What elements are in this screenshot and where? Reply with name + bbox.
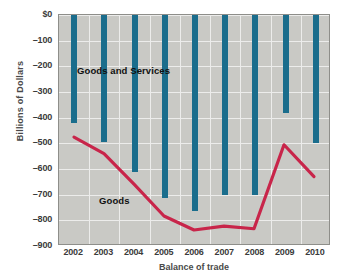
line-series-goods <box>59 15 329 244</box>
x-axis-tick-labels: 200220032004200520062007200820092010 <box>58 247 330 261</box>
balance-of-trade-chart: Billions of Dollars $0–100–200–300–400–5… <box>0 0 338 278</box>
x-tick-label: 2007 <box>215 247 234 257</box>
y-tick-label: $0 <box>42 9 52 19</box>
x-tick-label: 2008 <box>245 247 264 257</box>
y-tick-label: –500 <box>33 137 52 147</box>
x-tick-label: 2002 <box>63 247 82 257</box>
annotation-goods: Goods <box>99 195 130 206</box>
x-tick-label: 2005 <box>154 247 173 257</box>
annotation-goods-and-services: Goods and Services <box>77 65 170 76</box>
y-tick-label: –700 <box>33 189 52 199</box>
x-tick-label: 2009 <box>275 247 294 257</box>
y-tick-label: –900 <box>33 240 52 250</box>
y-tick-label: –200 <box>33 60 52 70</box>
y-tick-label: –100 <box>33 35 52 45</box>
x-axis-title: Balance of trade <box>58 262 330 272</box>
y-axis-tick-labels: $0–100–200–300–400–500–600–700–800–900 <box>0 0 56 278</box>
y-tick-label: –600 <box>33 163 52 173</box>
x-tick-label: 2004 <box>124 247 143 257</box>
y-tick-label: –300 <box>33 86 52 96</box>
y-tick-label: –800 <box>33 214 52 224</box>
x-tick-label: 2010 <box>305 247 324 257</box>
y-tick-label: –400 <box>33 112 52 122</box>
x-tick-label: 2003 <box>94 247 113 257</box>
plot-area: Goods and Services Goods <box>58 14 330 245</box>
x-tick-label: 2006 <box>184 247 203 257</box>
